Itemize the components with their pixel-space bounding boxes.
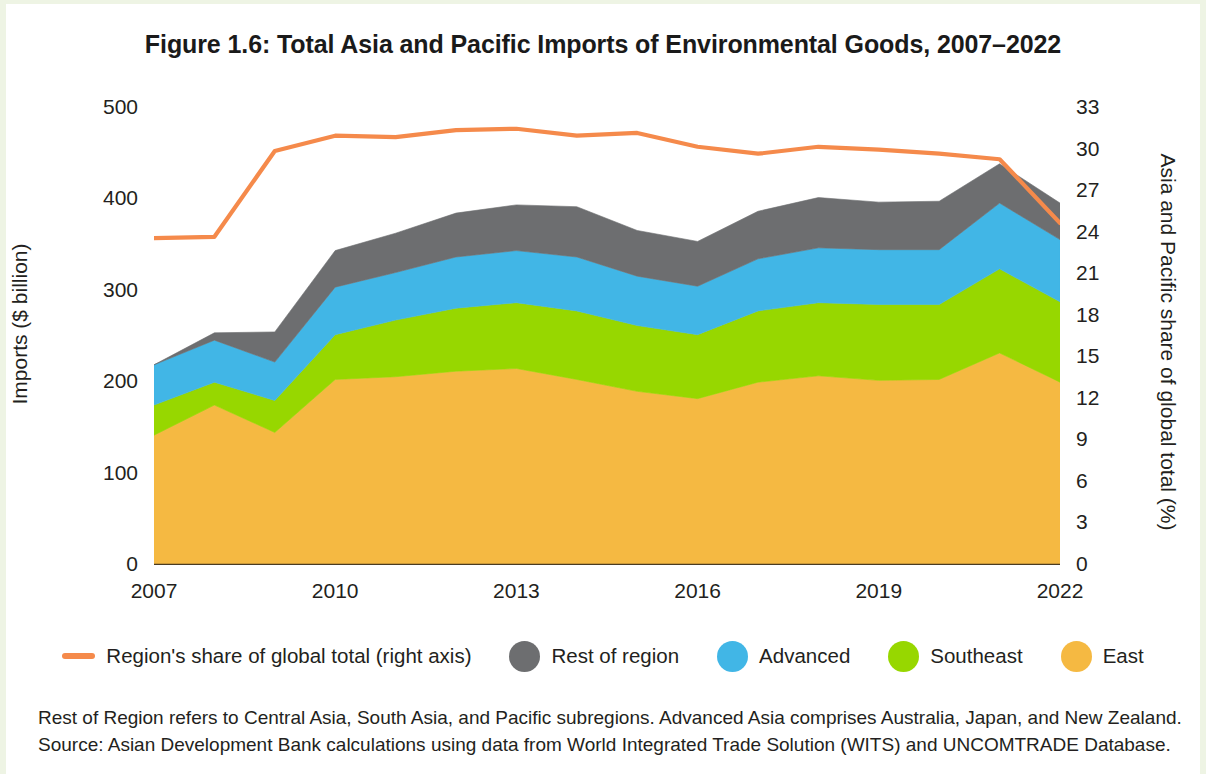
legend-item-label: Region's share of global total (right ax… [106,644,471,668]
chart-legend: Region's share of global total (right ax… [6,632,1200,680]
stacked-area-chart [154,108,1060,565]
legend-item-label: East [1103,644,1144,668]
legend-item-label: Advanced [759,644,850,668]
legend-item-label: Rest of region [551,644,679,668]
legend-item-advanced[interactable]: Advanced [717,641,850,672]
figure-page: Figure 1.6: Total Asia and Pacific Impor… [0,0,1206,774]
legend-dot-icon [717,641,748,672]
legend-dot-icon [888,641,919,672]
legend-dot-icon [509,641,540,672]
legend-item-southeast[interactable]: Southeast [888,641,1022,672]
figure-title: Figure 1.6: Total Asia and Pacific Impor… [6,30,1200,59]
x-axis-tick: 2019 [829,579,929,603]
legend-line-icon [62,653,95,659]
x-axis-tick: 2016 [648,579,748,603]
x-axis-tick: 2013 [466,579,566,603]
x-axis-tick: 2010 [285,579,385,603]
chart-canvas [154,108,1060,565]
x-axis-tick: 2022 [1010,579,1110,603]
legend-dot-icon [1061,641,1092,672]
x-axis-tick: 2007 [104,579,204,603]
legend-item-label: Southeast [930,644,1022,668]
chart-plot-wrapper: Imports ($ billion) Asia and Pacific sha… [6,92,1206,612]
figure-footnote: Rest of Region refers to Central Asia, S… [38,704,1172,758]
footnote-line-1: Rest of Region refers to Central Asia, S… [38,704,1172,731]
legend-item-region-s-share-of-global-total-right-axis[interactable]: Region's share of global total (right ax… [62,644,471,668]
legend-item-rest-of-region[interactable]: Rest of region [509,641,679,672]
footnote-line-2: Source: Asian Development Bank calculati… [38,731,1172,758]
legend-item-east[interactable]: East [1061,641,1144,672]
